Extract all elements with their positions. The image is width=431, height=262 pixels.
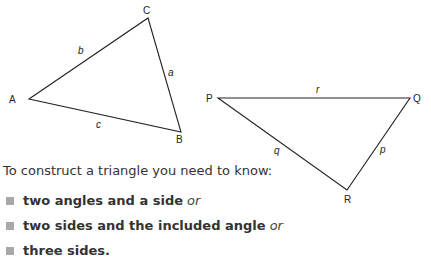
requirements-list: two angles and a side or two sides and t…: [6, 188, 283, 262]
vertex-label-r: R: [344, 194, 351, 205]
square-bullet-icon: [6, 222, 14, 230]
vertex-label-c: C: [143, 5, 150, 16]
side-label-b: b: [78, 45, 84, 56]
square-bullet-icon: [6, 247, 14, 255]
side-label-p: p: [379, 144, 386, 155]
triangle-pqr: P Q R r q p: [206, 84, 421, 205]
side-label-a: a: [168, 67, 174, 78]
side-label-r: r: [316, 84, 320, 95]
item-bold-text: two sides and the included angle: [23, 217, 266, 235]
list-item: three sides.: [6, 238, 283, 262]
list-item: two angles and a side or: [6, 188, 283, 213]
side-label-c: c: [96, 119, 101, 130]
item-bold-text: two angles and a side: [23, 192, 183, 210]
vertex-label-q: Q: [413, 93, 421, 104]
square-bullet-icon: [6, 197, 14, 205]
vertex-label-p: P: [206, 93, 213, 104]
side-label-q: q: [274, 145, 280, 156]
item-bold-text: three sides.: [23, 242, 110, 260]
triangle-abc: A C B b a c: [9, 5, 183, 145]
vertex-label-b: B: [176, 134, 183, 145]
list-item: two sides and the included angle or: [6, 213, 283, 238]
vertex-label-a: A: [9, 94, 16, 105]
item-suffix: or: [187, 192, 200, 210]
intro-text: To construct a triangle you need to know…: [3, 163, 272, 178]
item-suffix: or: [270, 217, 283, 235]
